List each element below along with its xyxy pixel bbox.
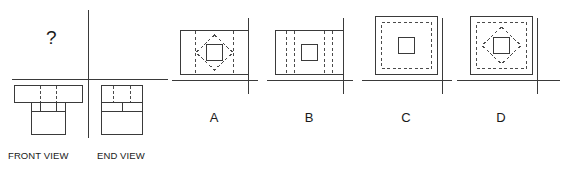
option-c-hidden-inner-square [382, 23, 432, 69]
front-view-drawing [15, 86, 83, 135]
option-d-hidden-diamond [482, 27, 521, 64]
option-a-outline [181, 31, 249, 75]
front-view-lower-block [32, 112, 66, 135]
option-b-center-square [302, 45, 318, 61]
option-d-center-square [494, 38, 510, 54]
option-c-outline [376, 17, 438, 75]
option-d-outline [471, 17, 533, 75]
front-view-flange-plate [15, 86, 83, 103]
option-b-drawing [267, 18, 353, 94]
front-view-label: FRONT VIEW [8, 150, 68, 161]
end-view-drawing [102, 86, 143, 135]
given-views-panel [12, 10, 168, 138]
option-c-center-square [399, 38, 415, 54]
option-a-label[interactable]: A [199, 110, 229, 125]
option-b-label[interactable]: B [294, 110, 324, 125]
option-a-hidden-diamond [196, 35, 233, 70]
option-a-center-square [207, 45, 223, 61]
drawing-stage [0, 0, 576, 174]
option-b-outline [276, 31, 344, 75]
option-d-hidden-inner-square [477, 23, 527, 69]
option-a-drawing [172, 18, 258, 94]
end-view-flange-band [102, 86, 143, 103]
orthographic-projection-drawing [0, 0, 576, 174]
option-c-label[interactable]: C [391, 110, 421, 125]
option-d-drawing [457, 17, 560, 95]
option-c-drawing [362, 17, 452, 95]
missing-view-question-mark: ? [46, 27, 57, 49]
end-view-label: END VIEW [97, 150, 145, 161]
option-d-label[interactable]: D [486, 110, 516, 125]
end-view-lower-block [102, 112, 143, 135]
